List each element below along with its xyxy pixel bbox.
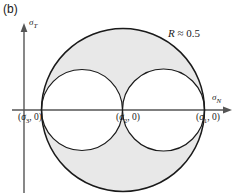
point-label-sigma-2: (σ2, 0) — [116, 112, 140, 125]
axis-label-sigma-t: σT — [29, 17, 37, 30]
axis-subscript-t: T — [33, 22, 37, 30]
axis-subscript-n: N — [216, 97, 221, 105]
axis-label-sigma-n: σN — [212, 92, 221, 105]
ratio-annotation: R ≈ 0.5 — [168, 27, 200, 39]
point-label-sigma-3: (σ3, 0) — [18, 112, 42, 125]
mohr-circle-figure: (b) σT σN (σ3, 0) (σ2, 0) (σ1, 0) — [0, 0, 238, 193]
ratio-relation: ≈ — [177, 27, 183, 39]
ratio-value: 0.5 — [186, 27, 200, 39]
point-label-sigma-1: (σ1, 0) — [196, 112, 220, 125]
ratio-variable: R — [168, 27, 175, 39]
